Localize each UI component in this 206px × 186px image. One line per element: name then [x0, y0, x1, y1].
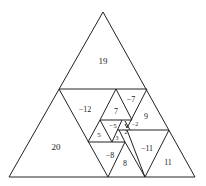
diagram-labels: 1920−127−795−5−223−88−1111: [52, 56, 172, 168]
triangle-label: −7: [127, 95, 136, 104]
triangle-label: −2: [132, 121, 138, 127]
triangle-label: 3: [116, 135, 119, 141]
triangle-label: −12: [79, 105, 92, 114]
line-7-right: [116, 89, 132, 120]
triangle-label: 8: [123, 159, 127, 168]
triangle-label: 11: [164, 158, 172, 167]
triangle-dissection-diagram: 1920−127−795−5−223−88−1111: [0, 0, 206, 186]
outer-triangle: [9, 12, 195, 177]
triangle-label: 2: [125, 129, 128, 135]
triangle-label: −8: [106, 151, 115, 160]
triangle-label: 19: [99, 56, 109, 66]
triangle-label: −11: [141, 144, 153, 153]
triangle-label: 20: [52, 142, 62, 152]
triangle-label: 5: [97, 131, 101, 139]
triangle-label: 9: [144, 112, 148, 121]
diagram-lines: [9, 12, 195, 177]
line-11-left: [145, 130, 169, 177]
triangle-label: −5: [109, 122, 117, 130]
line-neg11-left: [127, 130, 145, 177]
triangle-label: 7: [114, 107, 118, 116]
